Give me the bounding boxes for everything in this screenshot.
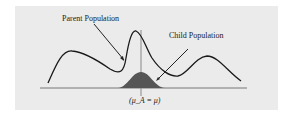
parent-arrowhead-icon (120, 56, 124, 61)
mean-label: (μ_A = μ) (129, 96, 161, 105)
parent-population-label: Parent Population (62, 14, 119, 23)
parent-pointer-line (94, 24, 124, 60)
child-population-label: Child Population (169, 31, 223, 40)
